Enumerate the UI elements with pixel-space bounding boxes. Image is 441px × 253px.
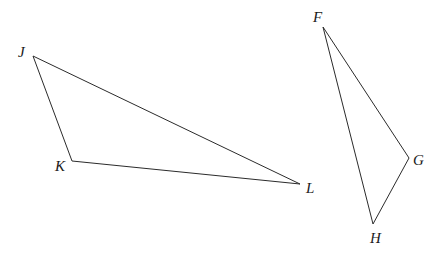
vertex-label-f: F [312, 9, 323, 25]
geometry-diagram: J K L F G H [0, 0, 441, 253]
vertex-label-l: L [305, 180, 314, 196]
vertex-label-g: G [413, 152, 424, 168]
triangle-jkl [33, 56, 300, 184]
vertex-label-h: H [369, 230, 382, 246]
vertex-label-k: K [54, 158, 66, 174]
diagram-svg: J K L F G H [0, 0, 441, 253]
vertex-label-j: J [18, 44, 26, 60]
triangle-fgh [323, 27, 409, 224]
